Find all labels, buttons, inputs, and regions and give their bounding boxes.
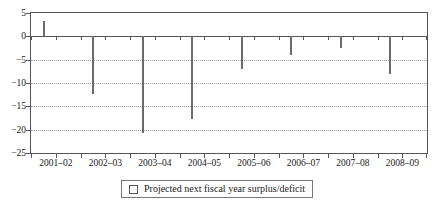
legend-label: Projected next fiscal year surplus/defic… (144, 183, 305, 195)
x-axis-tick (328, 36, 329, 40)
x-axis-tick (229, 36, 230, 40)
x-axis-category-label: 2008–09 (378, 157, 428, 169)
y-axis-tick (26, 83, 30, 84)
bar (290, 36, 292, 54)
y-axis-tick-label: 5 (0, 9, 26, 18)
gridline (31, 130, 427, 131)
bar (241, 36, 243, 69)
y-axis-tick (26, 36, 30, 37)
bar (43, 21, 45, 36)
y-axis-tick-label: −25 (0, 149, 26, 158)
x-axis-tick (180, 36, 181, 40)
chart-root: 50−5−10−15−20−25 2001–022002–032003–0420… (0, 0, 434, 207)
bar (191, 36, 193, 119)
y-axis-tick-label: 0 (0, 32, 26, 41)
y-axis-tick-label: −5 (0, 55, 26, 64)
chart-legend: Projected next fiscal year surplus/defic… (121, 180, 313, 198)
x-axis-tick (378, 36, 379, 40)
x-axis-category-label: 2004–05 (180, 157, 230, 169)
y-axis-tick (26, 106, 30, 107)
gridline (31, 83, 427, 84)
x-axis-tick (402, 36, 403, 40)
x-axis-category-label: 2003–04 (130, 157, 180, 169)
x-axis-tick (353, 36, 354, 40)
y-axis-tick (26, 13, 30, 14)
bar (92, 36, 94, 94)
x-axis-tick (303, 36, 304, 40)
y-axis-tick (26, 130, 30, 131)
y-axis-tick-label: −20 (0, 125, 26, 134)
bar (389, 36, 391, 73)
x-axis-tick (155, 36, 156, 40)
x-axis-labels: 2001–022002–032003–042004–052005–062006–… (30, 157, 428, 171)
x-axis-category-label: 2002–03 (81, 157, 131, 169)
x-axis-category-label: 2007–08 (328, 157, 378, 169)
x-axis-tick (56, 36, 57, 40)
x-axis-tick (279, 36, 280, 40)
plot-area (30, 12, 428, 154)
x-axis-tick (105, 36, 106, 40)
y-axis-tick (26, 60, 30, 61)
x-axis-tick (81, 36, 82, 40)
bar (340, 36, 342, 47)
y-axis-tick-label: −15 (0, 102, 26, 111)
x-axis-tick (130, 36, 131, 40)
bar (142, 36, 144, 133)
x-axis-tick (31, 36, 32, 40)
x-axis-category-label: 2005–06 (229, 157, 279, 169)
gridline (31, 106, 427, 107)
x-axis-tick (426, 36, 427, 40)
y-axis-tick (26, 153, 30, 154)
open-square-swatch (129, 185, 138, 194)
x-axis-tick (254, 36, 255, 40)
x-axis-category-label: 2006–07 (279, 157, 329, 169)
x-axis-category-label: 2001–02 (31, 157, 81, 169)
y-axis-tick-label: −10 (0, 79, 26, 88)
x-axis-tick (204, 36, 205, 40)
gridline (31, 60, 427, 61)
